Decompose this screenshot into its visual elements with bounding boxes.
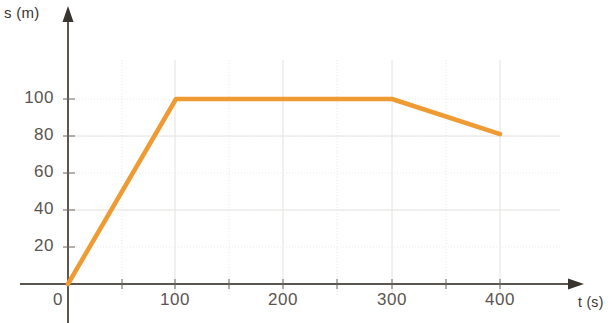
x-tick-label-200: 200 — [254, 290, 312, 310]
y-tick-label-20: 20 — [8, 236, 54, 256]
distance-time-graph-figure: s (m) t (s) 100 80 60 40 20 0 100 200 30… — [0, 0, 612, 323]
y-axis-label-variable: s — [4, 4, 12, 21]
y-tick-label-80: 80 — [8, 125, 54, 145]
x-tick-label-0: 0 — [38, 290, 78, 310]
data-series-line — [68, 99, 500, 284]
y-tick-label-100: 100 — [8, 88, 54, 108]
chart-plot-area — [0, 0, 612, 323]
y-axis-label-unit-text: (m) — [16, 4, 39, 21]
gridlines-vertical-minor — [122, 60, 446, 296]
x-tick-label-100: 100 — [146, 290, 204, 310]
y-tick-label-60: 60 — [8, 162, 54, 182]
gridlines-horizontal-major — [70, 136, 560, 210]
x-axis-label-unit-text: (s) — [586, 294, 603, 310]
y-axis-label: s (m) — [4, 4, 40, 21]
gridlines-horizontal — [70, 99, 560, 247]
x-axis — [20, 279, 584, 290]
x-tick-label-300: 300 — [363, 290, 421, 310]
x-axis-label: t (s) — [578, 294, 604, 310]
y-tick-label-40: 40 — [8, 199, 54, 219]
x-tick-label-400: 400 — [471, 290, 529, 310]
